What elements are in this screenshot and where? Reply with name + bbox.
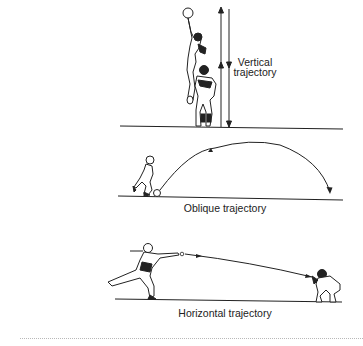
vertical-caption-line-2: trajectory bbox=[233, 67, 277, 77]
divider-line bbox=[20, 338, 363, 339]
horizontal-trajectory-path bbox=[185, 254, 312, 277]
catching-player-icon bbox=[312, 270, 340, 303]
throwing-player-icon bbox=[108, 244, 179, 300]
trajectory-illustration bbox=[0, 0, 363, 346]
ground-line bbox=[120, 126, 343, 129]
horizontal-panel bbox=[108, 244, 342, 303]
oblique-panel bbox=[118, 142, 343, 200]
horizontal-caption: Horizontal trajectory bbox=[170, 308, 280, 318]
ball-icon bbox=[183, 8, 193, 18]
kicking-player-icon bbox=[133, 156, 154, 196]
ground-line bbox=[118, 196, 343, 200]
trajectory-figure: Vertical trajectory Oblique trajectory H… bbox=[0, 0, 363, 346]
ball-icon bbox=[180, 252, 184, 256]
oblique-caption: Oblique trajectory bbox=[175, 203, 275, 213]
vertical-panel bbox=[120, 7, 343, 129]
ball-icon bbox=[154, 190, 161, 197]
defending-player-icon bbox=[195, 66, 216, 127]
vertical-caption: Vertical trajectory bbox=[233, 57, 277, 77]
oblique-trajectory-path bbox=[160, 142, 330, 192]
vertical-arrows bbox=[219, 7, 232, 127]
